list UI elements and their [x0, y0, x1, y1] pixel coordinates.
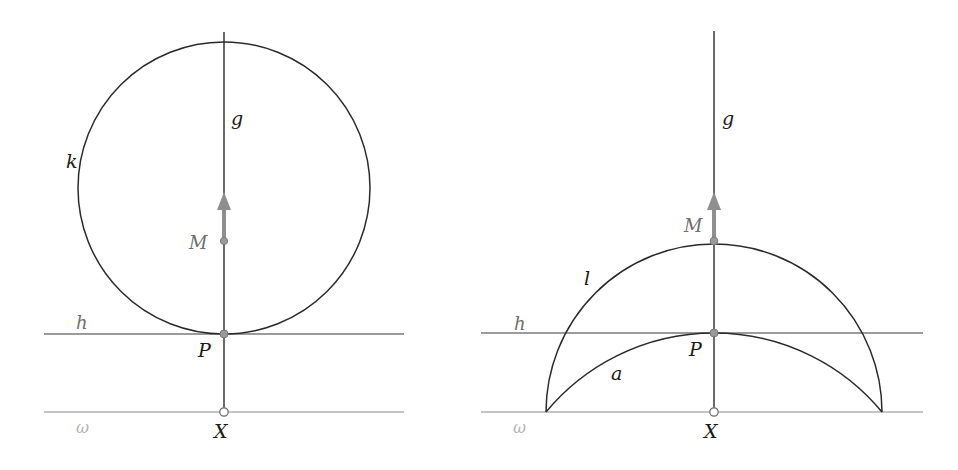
right-label-a: a: [611, 362, 622, 384]
left-label-X: X: [212, 420, 229, 442]
right-label-X: X: [702, 420, 719, 442]
left-point-P[interactable]: [220, 330, 228, 338]
left-arrow-icon: [217, 192, 231, 238]
right-label-l: l: [584, 267, 590, 289]
right-label-g: g: [722, 107, 734, 129]
left-label-P: P: [197, 339, 212, 361]
right-label-h: h: [514, 313, 526, 334]
right-point-M[interactable]: [710, 237, 718, 245]
left-figure: g k M h P ω X: [44, 32, 404, 442]
diagram-canvas: g k M h P ω X g M l h P a ω X: [0, 0, 958, 470]
left-label-omega: ω: [76, 418, 89, 437]
left-point-M[interactable]: [220, 237, 227, 244]
left-label-M: M: [188, 232, 208, 253]
right-label-M: M: [683, 215, 703, 236]
right-label-omega: ω: [513, 418, 526, 437]
right-figure: g M l h P a ω X: [481, 31, 923, 442]
left-point-X[interactable]: [220, 408, 228, 416]
left-label-g: g: [231, 107, 243, 129]
right-point-X[interactable]: [710, 408, 718, 416]
right-arrow-icon: [707, 192, 721, 238]
left-label-k: k: [66, 150, 78, 172]
right-label-P: P: [688, 338, 703, 360]
left-label-h: h: [76, 312, 88, 333]
right-point-P[interactable]: [710, 329, 718, 337]
